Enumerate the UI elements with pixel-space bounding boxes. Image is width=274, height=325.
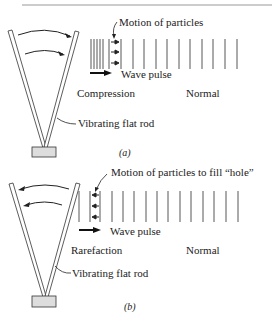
rod-motion-arrows-b — [21, 185, 69, 205]
leader-line — [57, 118, 76, 124]
particle-lines-normal-b — [112, 191, 238, 222]
arrow-head-icon — [65, 33, 72, 38]
normal-label-b: Normal — [186, 245, 220, 256]
arrow-head-icon — [95, 187, 99, 192]
arrow-head-icon — [23, 202, 30, 207]
rod-base-b — [32, 296, 56, 307]
arrow-head-icon — [18, 186, 25, 191]
motion-label-b: Motion of particles to fill “hole” — [111, 167, 254, 178]
rod-base-a — [32, 147, 56, 157]
rarefaction-label: Rarefaction — [71, 245, 122, 256]
caption-a: (a) — [119, 148, 131, 158]
panel-b — [9, 174, 238, 307]
motion-label-a: Motion of particles — [119, 17, 203, 28]
leader-line — [55, 266, 71, 273]
arrow-head-icon — [58, 51, 65, 56]
leader-line — [113, 22, 117, 36]
arrow-head-icon — [104, 70, 112, 76]
particle-lines-normal-a — [133, 39, 237, 69]
rod-label-a: Vibrating flat rod — [78, 118, 154, 129]
particle-motion-arrows-a — [111, 40, 119, 65]
wave-pulse-label-b: Wave pulse — [110, 226, 161, 237]
arrow-head-icon — [112, 34, 116, 39]
wave-pulse-label-a: Wave pulse — [121, 69, 172, 80]
caption-b: (b) — [124, 302, 136, 312]
rod-label-b: Vibrating flat rod — [72, 268, 148, 279]
leader-line — [97, 174, 107, 188]
vibrating-rod-a — [8, 30, 79, 148]
compression-label: Compression — [77, 88, 135, 99]
arrow-head-icon — [93, 227, 101, 233]
vibrating-rod-b — [9, 183, 80, 297]
rod-motion-arrows-a — [18, 30, 70, 54]
particle-motion-arrows-b — [92, 193, 99, 219]
normal-label-a: Normal — [186, 88, 220, 99]
